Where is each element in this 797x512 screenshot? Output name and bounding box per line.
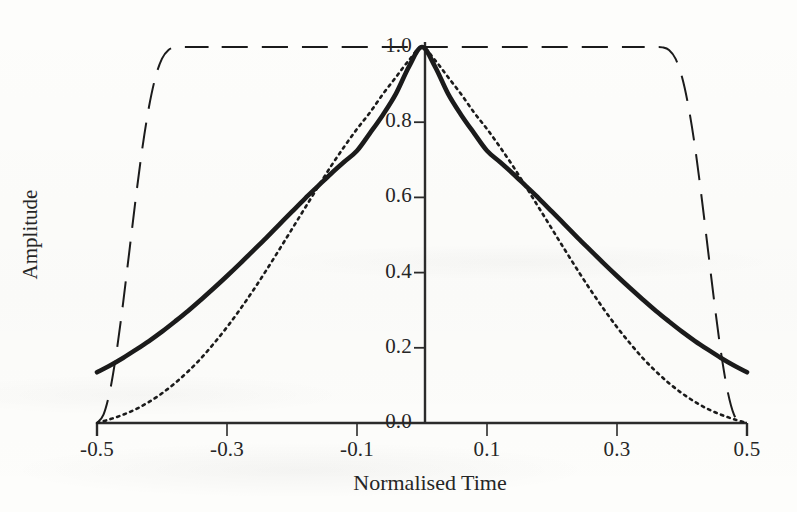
y-tick-label: 0.2 (352, 334, 412, 359)
y-tick-label: 0.4 (352, 259, 412, 284)
curve-thick-solid-window (97, 47, 747, 372)
x-tick-label: -0.3 (192, 437, 262, 462)
x-tick-label: -0.1 (322, 437, 392, 462)
y-axis-title: Amplitude (18, 165, 43, 305)
x-axis-ticks (97, 423, 747, 436)
curve-dotted-window (97, 47, 747, 423)
y-axis-ticks (414, 122, 425, 423)
axes-group (97, 42, 747, 436)
data-curves (97, 47, 747, 424)
y-tick-label: 0.0 (352, 409, 412, 434)
y-tick-label: 0.6 (352, 183, 412, 208)
figure-canvas: 0.00.20.40.60.81.0 -0.5-0.3-0.10.10.30.5… (0, 0, 797, 512)
x-axis-title: Normalised Time (240, 470, 620, 496)
y-tick-label: 0.8 (352, 108, 412, 133)
x-tick-label: 0.5 (712, 437, 782, 462)
curve-long-dashed-tukey-window (97, 47, 747, 424)
x-tick-label: -0.5 (62, 437, 132, 462)
y-tick-label: 1.0 (352, 33, 412, 58)
x-tick-label: 0.3 (582, 437, 652, 462)
x-tick-label: 0.1 (452, 437, 522, 462)
plot-area (0, 0, 797, 512)
